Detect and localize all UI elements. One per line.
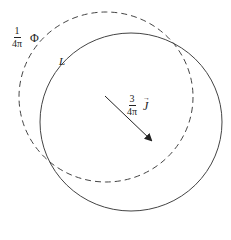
j-coefficient-fraction: 3 4π (127, 94, 137, 117)
phi-symbol-label: Φ (30, 32, 39, 44)
solid-curve-l (40, 33, 222, 211)
phi-fraction-denominator: 4π (12, 38, 22, 49)
j-fraction-denominator: 4π (127, 106, 137, 117)
l-curve-label: L (59, 56, 65, 67)
phi-coefficient-fraction: 1 4π (12, 26, 22, 49)
phi-fraction-numerator: 1 (14, 26, 21, 38)
j-fraction-numerator: 3 (129, 94, 136, 106)
j-symbol-label: J (143, 100, 148, 112)
